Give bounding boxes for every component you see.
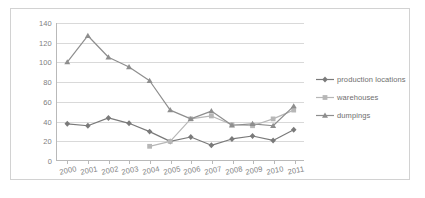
legend-label: warehouses	[337, 93, 378, 102]
y-axis-tick-label: 20	[43, 137, 52, 146]
legend-swatch-diamond-icon	[316, 75, 334, 84]
data-point-marker	[209, 114, 214, 119]
gridline	[57, 161, 304, 162]
x-axis-tick-mark	[67, 160, 68, 164]
x-axis-tick-mark	[233, 160, 234, 164]
legend-label: production locations	[337, 75, 406, 84]
series-line	[67, 118, 293, 145]
data-point-marker	[65, 121, 71, 127]
data-point-marker	[208, 108, 214, 113]
x-axis-tick-mark	[150, 160, 151, 164]
chart-frame: 020406080100120140 200020012002200320042…	[10, 8, 410, 180]
x-axis-tick-mark	[171, 160, 172, 164]
legend-label: dumpings	[337, 111, 370, 120]
chart-screenshot: 020406080100120140 200020012002200320042…	[0, 0, 425, 198]
data-point-marker	[322, 77, 328, 83]
chart-legend: production locationswarehousesdumpings	[316, 75, 416, 120]
series-plot	[57, 23, 304, 160]
y-axis-tick-label: 40	[43, 117, 52, 126]
x-axis-tick-label: 2009	[245, 164, 264, 176]
data-point-marker	[168, 139, 173, 144]
x-axis-tick-label: 2004	[141, 164, 160, 176]
data-point-marker	[188, 134, 194, 140]
series-dumpings	[64, 33, 296, 128]
legend-item-production-locations[interactable]: production locations	[316, 75, 416, 84]
series-production-locations	[65, 115, 297, 148]
data-point-marker	[209, 142, 215, 148]
data-point-marker	[85, 33, 91, 38]
x-axis-tick-label: 2001	[79, 164, 98, 176]
data-point-marker	[147, 78, 153, 83]
x-axis-tick-label: 2002	[100, 164, 119, 176]
x-axis-tick-mark	[191, 160, 192, 164]
x-axis-tick-label: 2006	[183, 164, 202, 176]
plot-area: 020406080100120140 200020012002200320042…	[56, 23, 304, 161]
x-axis-tick-label: 2007	[203, 164, 222, 176]
x-axis-tick-mark	[109, 160, 110, 164]
data-point-marker	[126, 120, 132, 126]
data-point-marker	[291, 103, 297, 108]
x-axis-tick-label: 2005	[162, 164, 181, 176]
y-axis-tick-label: 0	[48, 157, 52, 166]
x-axis-tick-label: 2010	[265, 164, 284, 176]
data-point-marker	[229, 136, 235, 142]
y-axis-tick-label: 60	[43, 97, 52, 106]
legend-swatch-square-icon	[316, 93, 334, 102]
x-axis-tick-mark	[129, 160, 130, 164]
x-axis-tick-label: 2011	[286, 164, 304, 176]
data-point-marker	[271, 117, 276, 122]
series-line	[67, 36, 293, 126]
legend-item-warehouses[interactable]: warehouses	[316, 93, 416, 102]
x-axis-tick-mark	[212, 160, 213, 164]
legend-swatch-triangle-icon	[316, 111, 334, 120]
legend-item-dumpings[interactable]: dumpings	[316, 111, 416, 120]
x-axis-tick-mark	[295, 160, 296, 164]
x-axis-tick-label: 2008	[224, 164, 243, 176]
y-axis-tick-label: 120	[39, 38, 52, 47]
data-point-marker	[147, 144, 152, 149]
x-axis-tick-mark	[274, 160, 275, 164]
data-point-marker	[106, 115, 112, 121]
x-axis-tick-label: 2000	[59, 164, 78, 176]
y-axis-tick-label: 140	[39, 19, 52, 28]
data-point-marker	[147, 129, 153, 135]
data-point-marker	[250, 133, 256, 139]
data-point-marker	[85, 123, 91, 129]
x-axis-tick-mark	[88, 160, 89, 164]
x-axis-tick-label: 2003	[121, 164, 140, 176]
y-axis-tick-label: 80	[43, 78, 52, 87]
x-axis-tick-mark	[253, 160, 254, 164]
y-axis-tick-label: 100	[39, 58, 52, 67]
data-point-marker	[323, 95, 328, 100]
data-point-marker	[270, 137, 276, 143]
data-point-marker	[291, 127, 297, 133]
